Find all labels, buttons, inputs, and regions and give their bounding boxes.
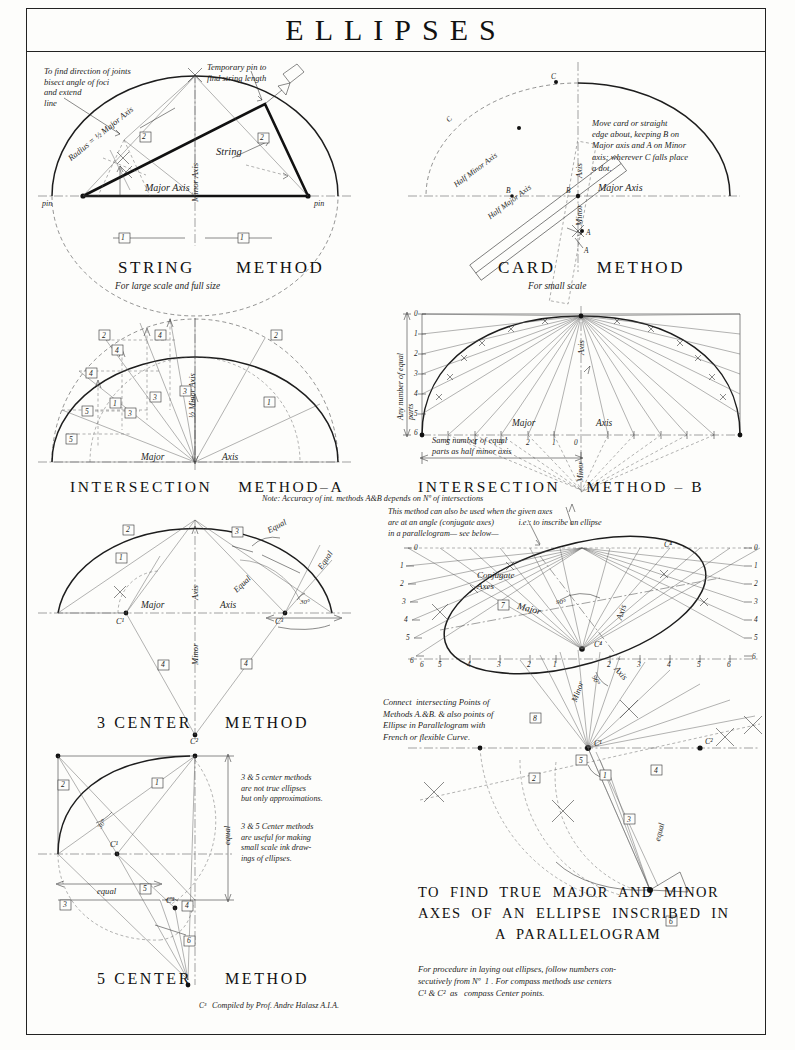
three-center-label-axis: Axis	[220, 600, 236, 612]
int-b-label-vertical-scale: Any number of equal parts	[396, 353, 415, 420]
five-center-step-2: 2	[61, 780, 65, 789]
string-label-minor: Minor	[190, 180, 201, 202]
parallelogram-heading-line-3: A PARALLELOGRAM	[495, 926, 661, 943]
int-a-step-3a: 3	[153, 393, 157, 402]
three-center-heading: 3 CENTER METHOD	[97, 714, 309, 732]
parallelogram-bt-r2: 2	[607, 660, 611, 669]
three-center-angle: 30°	[300, 598, 310, 607]
three-center-figure	[38, 520, 352, 740]
int-b-vtick-4: 4	[414, 389, 418, 398]
three-center-label-minor: Minor	[190, 644, 201, 665]
three-center-c1: C¹	[116, 617, 124, 627]
card-point-a: A	[586, 228, 591, 237]
string-label-pin-right: pin	[314, 199, 324, 209]
parallelogram-note-procedure: For procedure in laying out ellipses, fo…	[418, 964, 616, 1000]
five-center-c1: C¹	[110, 840, 118, 850]
string-label-axis: Axis	[190, 163, 201, 178]
string-method-heading: STRING METHOD	[118, 258, 324, 278]
three-center-step-1: 1	[119, 553, 123, 562]
int-a-step-4c: 4	[89, 369, 93, 378]
parallelogram-angle-top: 90°	[556, 598, 566, 607]
five-center-heading: 5 CENTER METHOD	[97, 970, 309, 988]
int-b-vtick-0: 0	[414, 309, 418, 318]
card-method-subtitle: For small scale	[528, 281, 586, 291]
parallelogram-rt-5: 5	[754, 633, 758, 642]
five-center-c3: C³	[166, 896, 174, 906]
int-a-step-4b: 4	[158, 331, 162, 340]
string-label-pin-left: pin	[42, 199, 52, 209]
parallelogram-step-5: 5	[579, 756, 583, 765]
parallelogram-bt-r4: 4	[667, 660, 671, 669]
parallelogram-lt-6: 6	[410, 656, 414, 665]
three-center-label-axis-v: Axis	[190, 585, 201, 600]
five-center-equal-v: equal	[222, 826, 233, 845]
int-b-htick-5: 5	[446, 438, 450, 447]
card-label-axis: Axis	[574, 163, 585, 178]
parallelogram-lt-5: 5	[406, 633, 410, 642]
parallelogram-label-conjugate-axes: Conjugate Axes	[477, 570, 515, 593]
card-point-b: B	[566, 186, 571, 195]
parallelogram-bt-l2: 2	[527, 660, 531, 669]
parallelogram-rt-2: 2	[754, 579, 758, 588]
int-b-htick-1: 1	[552, 438, 556, 447]
card-method-heading: CARD METHOD	[498, 258, 685, 278]
int-a-step-4a: 4	[115, 346, 119, 355]
parallelogram-c1: C¹	[594, 739, 602, 749]
int-a-step-1b: 1	[267, 398, 271, 407]
int-b-vtick-2: 2	[414, 349, 418, 358]
card-label-minor: Minor	[574, 205, 585, 226]
parallelogram-bt-l5: 5	[438, 660, 442, 669]
int-a-step-3c: 3	[128, 409, 132, 418]
card-card-point-b: B	[506, 186, 511, 195]
parallelogram-step-4: 4	[654, 766, 658, 775]
string-step-2a: 2	[142, 132, 146, 141]
parallelogram-lt-3: 3	[402, 597, 406, 606]
five-center-step-1: 1	[155, 778, 159, 787]
int-a-step-5b: 5	[69, 435, 73, 444]
five-center-figure	[38, 754, 234, 988]
five-center-note-1: 3 & 5 center methods are not true ellips…	[241, 773, 323, 805]
parallelogram-note-connect: Connect intersecting Points of Methods A…	[383, 697, 493, 743]
int-a-step-3b: 3	[183, 387, 187, 396]
parallelogram-heading-line-2: AXES OF AN ELLIPSE INSCRIBED IN	[418, 905, 729, 922]
three-center-step-4b: 4	[244, 659, 248, 668]
intersection-b-heading: INTERSECTION METHOD – B	[418, 478, 704, 496]
intersection-b-figure	[403, 306, 742, 492]
card-note: Move card or straight edge about, keepin…	[592, 118, 688, 174]
parallelogram-rt-3: 3	[754, 597, 758, 606]
parallelogram-bt-r5: 5	[697, 660, 701, 669]
parallelogram-lt-1: 1	[400, 561, 404, 570]
int-b-htick-4: 4	[473, 438, 477, 447]
parallelogram-step-1: 1	[603, 771, 607, 780]
int-b-vtick-5: 5	[414, 409, 418, 418]
parallelogram-heading-line-1: TO FIND TRUE MAJOR AND MINOR	[418, 884, 719, 901]
parallelogram-rt-1: 1	[754, 561, 758, 570]
string-step-1a: 1	[121, 233, 125, 242]
parallelogram-step-3: 3	[627, 815, 631, 824]
card-card-point-a: A	[584, 246, 589, 255]
parallelogram-c4-upper: C⁴	[664, 540, 672, 550]
int-b-label-axis-vert: Axis	[576, 340, 587, 355]
parallelogram-rt-4: 4	[754, 615, 758, 624]
string-step-2b: 2	[260, 133, 264, 142]
parallelogram-c4-top: C⁴	[594, 640, 602, 650]
parallelogram-lt-0: 0	[414, 543, 418, 552]
string-method-subtitle: For large scale and full size	[115, 281, 220, 291]
five-center-equal-h: equal	[97, 886, 116, 897]
five-center-step-3: 3	[63, 900, 67, 909]
credit-marker: C³	[199, 1001, 206, 1010]
int-b-htick-2: 2	[526, 438, 530, 447]
string-label-major-axis: Major Axis	[145, 182, 190, 194]
parallelogram-rt-6: 6	[752, 652, 756, 661]
three-center-label-major: Major	[141, 600, 164, 612]
parallelogram-step-7: 7	[501, 601, 505, 610]
three-center-step-3: 3	[235, 527, 239, 536]
three-center-c2: C²	[190, 737, 198, 747]
int-a-step-5a: 5	[85, 407, 89, 416]
int-a-step-2b: 2	[274, 331, 278, 340]
parallelogram-bt-l6: 6	[420, 660, 424, 669]
card-point-c: C	[551, 72, 556, 81]
int-a-step-2a: 2	[102, 331, 106, 340]
int-b-htick-0: 0	[574, 438, 578, 447]
string-note-joints: To find direction of joints bisect angle…	[44, 66, 131, 109]
